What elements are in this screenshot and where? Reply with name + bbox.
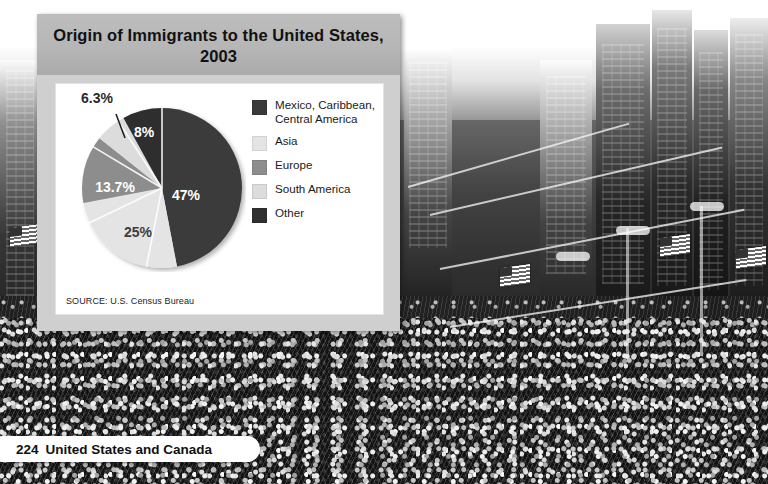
- slice-label-europe: 13.7%: [95, 179, 135, 195]
- pie-chart: 6.3%: [56, 84, 383, 314]
- building-center-left: [404, 48, 452, 298]
- legend-label-south-america: South America: [275, 182, 350, 196]
- chart-panel: Origin of Immigrants to the United State…: [37, 14, 400, 331]
- street-lamp-1: [690, 202, 724, 211]
- slice-label-asia: 25%: [124, 224, 153, 240]
- street-lamp-2: [616, 226, 650, 235]
- legend-item-mexico: Mexico, Caribbean, Central America: [252, 98, 378, 127]
- chart-panel-body: 6.3%: [55, 83, 384, 315]
- legend-swatch-other: [252, 208, 267, 223]
- legend-item-asia: Asia: [252, 134, 378, 151]
- building-center: [540, 60, 592, 320]
- legend-label-mexico: Mexico, Caribbean, Central America: [275, 98, 378, 127]
- legend-item-south-america: South America: [252, 182, 378, 199]
- page-footer: 224 United States and Canada: [0, 436, 260, 462]
- street-pole-2: [626, 228, 629, 358]
- slice-label-mexico: 47%: [172, 187, 201, 203]
- legend-swatch-asia: [252, 136, 267, 151]
- legend-label-europe: Europe: [275, 158, 312, 172]
- chart-panel-header: Origin of Immigrants to the United State…: [37, 14, 400, 75]
- street-lamp-3: [556, 252, 590, 261]
- slice-label-other: 8%: [134, 124, 155, 140]
- slice-callout-label-south-america: 6.3%: [81, 90, 113, 106]
- legend-item-europe: Europe: [252, 158, 378, 175]
- pie-svg: 47% 25% 13.7% 8%: [68, 92, 246, 272]
- pie-graphic: 6.3%: [68, 92, 246, 272]
- legend-label-other: Other: [275, 206, 304, 220]
- legend-swatch-mexico: [252, 100, 267, 115]
- legend-swatch-europe: [252, 160, 267, 175]
- legend-item-other: Other: [252, 206, 378, 223]
- legend-label-asia: Asia: [275, 134, 298, 148]
- page-number: 224: [16, 442, 39, 457]
- legend-swatch-south-america: [252, 184, 267, 199]
- street-pole-1: [700, 206, 703, 356]
- chapter-title: United States and Canada: [46, 442, 213, 457]
- textbook-page: Origin of Immigrants to the United State…: [0, 0, 768, 484]
- chart-title: Origin of Immigrants to the United State…: [51, 25, 386, 66]
- chart-source: SOURCE: U.S. Census Bureau: [66, 296, 194, 306]
- chart-legend: Mexico, Caribbean, Central America Asia …: [252, 98, 378, 230]
- building-right-b: [652, 10, 692, 330]
